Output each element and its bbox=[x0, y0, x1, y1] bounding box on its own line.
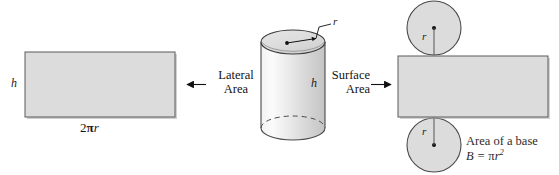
net-top-circle bbox=[407, 1, 461, 55]
base-area-note-line-1: Area of a base bbox=[466, 134, 538, 148]
cylinder-surface-area-figure: h 2πr Lateral Area r h Surface Area r r … bbox=[0, 0, 559, 175]
unrolled-lateral-rectangle bbox=[25, 52, 177, 119]
formula-exponent: 2 bbox=[500, 147, 504, 157]
width-label-r: r bbox=[94, 120, 99, 135]
formula-equals: = bbox=[477, 149, 485, 163]
formula-lhs: B bbox=[466, 149, 474, 163]
net-lateral-rectangle bbox=[398, 56, 550, 119]
net-bottom-circle bbox=[407, 118, 461, 172]
lateral-area-line-2: Area bbox=[210, 82, 262, 96]
lateral-area-line-1: Lateral bbox=[210, 68, 262, 82]
base-area-formula: B = πr2 bbox=[466, 148, 538, 163]
left-rect-width-label: 2πr bbox=[80, 121, 99, 136]
surface-area-line-1: Surface bbox=[312, 68, 370, 82]
width-label-pi: π bbox=[87, 120, 94, 135]
cylinder-radius-label: r bbox=[333, 15, 337, 27]
base-area-note: Area of a base B = πr2 bbox=[466, 134, 538, 163]
surface-area-line-2: Area bbox=[312, 82, 370, 96]
net-top-circle-radius-label: r bbox=[422, 30, 426, 42]
net-bottom-circle-radius-label: r bbox=[422, 125, 426, 137]
left-rect-height-label: h bbox=[11, 77, 17, 90]
lateral-area-label: Lateral Area bbox=[210, 68, 262, 96]
surface-area-label: Surface Area bbox=[312, 68, 370, 96]
